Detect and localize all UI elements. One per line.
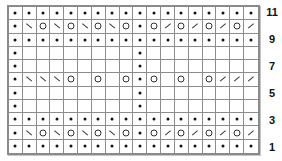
stitch-cell-r11-c11 xyxy=(147,7,161,20)
stitch-cell-r11-c7 xyxy=(92,7,106,20)
stitch-cell-r3-c6 xyxy=(78,113,92,126)
purl-dot-icon xyxy=(138,118,141,121)
purl-dot-icon xyxy=(14,131,17,134)
purl-dot-icon xyxy=(83,118,86,121)
yarn-over-circle-icon xyxy=(178,23,185,30)
stitch-cell-r3-c5 xyxy=(64,113,78,126)
stitch-cell-r10-c17 xyxy=(230,20,244,33)
stitch-cell-r2-c18 xyxy=(244,126,258,139)
stitch-cell-r8-c13 xyxy=(175,47,189,60)
yarn-over-circle-icon xyxy=(67,76,74,83)
stitch-cell-r1-c1 xyxy=(9,140,23,153)
stitch-cell-r4-c2 xyxy=(23,100,37,113)
yarn-over-circle-icon xyxy=(150,23,157,30)
purl-dot-icon xyxy=(194,118,197,121)
stitch-cell-r1-c17 xyxy=(230,140,244,153)
ssk-left-slant-icon xyxy=(26,24,32,29)
purl-dot-icon xyxy=(111,38,114,41)
purl-dot-icon xyxy=(152,38,155,41)
stitch-cell-r1-c10 xyxy=(133,140,147,153)
yarn-over-circle-icon xyxy=(206,76,213,83)
stitch-cell-r10-c15 xyxy=(203,20,217,33)
purl-dot-icon xyxy=(97,145,100,148)
stitch-cell-r2-c3 xyxy=(37,126,51,139)
purl-dot-icon xyxy=(221,145,224,148)
stitch-cell-r6-c18 xyxy=(244,73,258,86)
purl-dot-icon xyxy=(166,145,169,148)
stitch-cell-r4-c6 xyxy=(78,100,92,113)
stitch-cell-r2-c12 xyxy=(161,126,175,139)
stitch-cell-r10-c10 xyxy=(133,20,147,33)
purl-dot-icon xyxy=(138,145,141,148)
ssk-left-slant-icon xyxy=(54,24,60,29)
yarn-over-circle-icon xyxy=(233,23,240,30)
stitch-cell-r8-c3 xyxy=(37,47,51,60)
k2tog-right-slant-icon xyxy=(220,130,226,135)
purl-dot-icon xyxy=(221,12,224,15)
stitch-cell-r7-c3 xyxy=(37,60,51,73)
purl-dot-icon xyxy=(138,12,141,15)
purl-dot-icon xyxy=(28,12,31,15)
stitch-cell-r7-c18 xyxy=(244,60,258,73)
stitch-cell-r8-c18 xyxy=(244,47,258,60)
k2tog-right-slant-icon xyxy=(234,77,240,82)
yarn-over-circle-icon xyxy=(178,76,185,83)
stitch-cell-r7-c1 xyxy=(9,60,23,73)
purl-dot-icon xyxy=(250,12,253,15)
purl-dot-icon xyxy=(111,12,114,15)
yarn-over-circle-icon xyxy=(95,76,102,83)
purl-dot-icon xyxy=(221,38,224,41)
stitch-cell-r2-c13 xyxy=(175,126,189,139)
purl-dot-icon xyxy=(28,118,31,121)
stitch-cell-r7-c5 xyxy=(64,60,78,73)
stitch-cell-r3-c8 xyxy=(106,113,120,126)
ssk-left-slant-icon xyxy=(26,130,32,135)
yarn-over-circle-icon xyxy=(40,129,47,136)
stitch-cell-r9-c11 xyxy=(147,34,161,47)
yarn-over-circle-icon xyxy=(123,129,130,136)
stitch-cell-r5-c11 xyxy=(147,87,161,100)
purl-dot-icon xyxy=(14,25,17,28)
row-label-7: 7 xyxy=(262,60,282,72)
stitch-cell-r5-c10 xyxy=(133,87,147,100)
stitch-cell-r5-c14 xyxy=(189,87,203,100)
stitch-cell-r9-c17 xyxy=(230,34,244,47)
purl-dot-icon xyxy=(83,38,86,41)
stitch-cell-r7-c10 xyxy=(133,60,147,73)
row-number-labels: 11 9 7 5 3 1 xyxy=(262,5,282,155)
stitch-cell-r11-c4 xyxy=(50,7,64,20)
k2tog-right-slant-icon xyxy=(248,24,254,29)
purl-dot-icon xyxy=(14,65,17,68)
stitch-cell-r8-c16 xyxy=(216,47,230,60)
stitch-cell-r8-c1 xyxy=(9,47,23,60)
stitch-cell-r8-c2 xyxy=(23,47,37,60)
stitch-cell-r11-c12 xyxy=(161,7,175,20)
stitch-cell-r7-c9 xyxy=(120,60,134,73)
yarn-over-circle-icon xyxy=(67,129,74,136)
purl-dot-icon xyxy=(208,38,211,41)
purl-dot-icon xyxy=(221,118,224,121)
purl-dot-icon xyxy=(14,51,17,54)
purl-dot-icon xyxy=(42,12,45,15)
stitch-cell-r3-c9 xyxy=(120,113,134,126)
stitch-cell-r1-c11 xyxy=(147,140,161,153)
stitch-cell-r8-c10 xyxy=(133,47,147,60)
purl-dot-icon xyxy=(28,38,31,41)
stitch-cell-r10-c14 xyxy=(189,20,203,33)
stitch-cell-r5-c16 xyxy=(216,87,230,100)
k2tog-right-slant-icon xyxy=(164,130,170,135)
purl-dot-icon xyxy=(83,12,86,15)
purl-dot-icon xyxy=(97,38,100,41)
stitch-cell-r9-c13 xyxy=(175,34,189,47)
purl-dot-icon xyxy=(69,118,72,121)
stitch-cell-r1-c18 xyxy=(244,140,258,153)
purl-dot-icon xyxy=(138,51,141,54)
stitch-cell-r2-c15 xyxy=(203,126,217,139)
stitch-cell-r6-c10 xyxy=(133,73,147,86)
yarn-over-circle-icon xyxy=(233,129,240,136)
stitch-cell-r3-c1 xyxy=(9,113,23,126)
stitch-cell-r7-c11 xyxy=(147,60,161,73)
stitch-cell-r1-c7 xyxy=(92,140,106,153)
stitch-cell-r4-c10 xyxy=(133,100,147,113)
stitch-cell-r4-c4 xyxy=(50,100,64,113)
